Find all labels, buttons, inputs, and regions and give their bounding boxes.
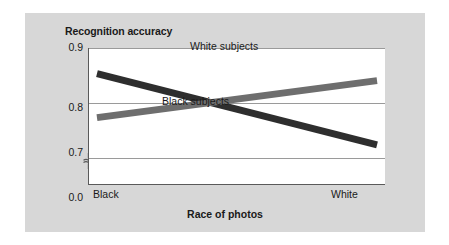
- y-tick-label-1: 0.8: [68, 101, 83, 113]
- y-tick-label-0: 0.9: [68, 41, 83, 53]
- plot-area: [88, 48, 385, 185]
- x-tick-label-black: Black: [93, 188, 119, 200]
- y-tick-label-3: 0.0: [68, 191, 83, 203]
- series-label-black-subjects: Black subjects: [162, 95, 229, 107]
- data-lines: [89, 48, 385, 184]
- y-axis-title: Recognition accuracy: [65, 25, 172, 37]
- x-tick-label-white: White: [331, 188, 358, 200]
- y-axis-tick-labels: 0.9 0.8 0.7 0.0: [25, 48, 83, 185]
- series-label-white-subjects: White subjects: [190, 40, 258, 52]
- chart-figure: Recognition accuracy 0.9 0.8 0.7 0.0 Whi…: [25, 13, 425, 232]
- x-axis-title: Race of photos: [25, 208, 425, 220]
- y-tick-label-2: 0.7: [68, 146, 83, 158]
